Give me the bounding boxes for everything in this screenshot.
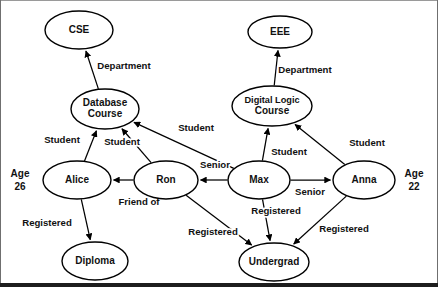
attribute-text-alice-age: 26 <box>14 181 26 192</box>
nodes-layer: CSEEEEDatabaseCourseDigital LogicCourseA… <box>43 11 395 281</box>
edge-label-e4: Student <box>104 136 141 147</box>
node-ron[interactable]: Ron <box>134 161 198 199</box>
attribute-anna-age: Age22 <box>405 168 424 192</box>
node-label-max: Max <box>249 174 269 185</box>
node-label-alice: Alice <box>65 174 89 185</box>
node-label-dlcourse: Digital Logic <box>244 95 299 105</box>
edge-label-e1: Department <box>97 60 151 71</box>
attribute-text-alice-age: Age <box>11 168 30 179</box>
attribute-text-anna-age: 22 <box>408 181 420 192</box>
edge-label-e13: Registered <box>251 205 301 216</box>
knowledge-graph: DepartmentDepartmentDepartmentDepartment… <box>0 0 438 298</box>
node-label-diploma: Diploma <box>75 255 115 266</box>
edge-max-to-dlcourse <box>262 128 268 160</box>
node-label-dbcourse: Database <box>83 97 128 108</box>
edge-anna-to-undergrad <box>294 196 347 244</box>
node-label-dbcourse: Course <box>88 108 123 119</box>
edge-label-e9: Senior <box>200 159 230 170</box>
edge-alice-to-diploma <box>81 199 90 239</box>
node-max[interactable]: Max <box>228 161 290 199</box>
edge-alice-to-dbcourse <box>85 131 97 161</box>
attribute-text-anna-age: Age <box>405 168 424 179</box>
node-dbcourse[interactable]: DatabaseCourse <box>71 89 139 129</box>
edge-label-e14: Registered <box>319 223 369 234</box>
node-label-cse: CSE <box>69 24 90 35</box>
node-label-dlcourse: Course <box>255 105 290 116</box>
node-alice[interactable]: Alice <box>43 161 111 199</box>
edge-label-e5: Student <box>178 122 215 133</box>
edge-label-e7: Student <box>349 137 386 148</box>
node-label-anna: Anna <box>352 174 377 185</box>
edge-label-e11: Registered <box>22 217 72 228</box>
node-diploma[interactable]: Diploma <box>62 242 128 280</box>
edge-label-e3: Student <box>44 134 81 145</box>
attribute-alice-age: Age26 <box>11 168 30 192</box>
node-label-ron: Ron <box>156 174 175 185</box>
edge-label-e2: Department <box>278 64 332 75</box>
node-anna[interactable]: Anna <box>333 161 395 199</box>
node-label-eee: EEE <box>270 26 290 37</box>
edge-label-e6: Student <box>271 146 308 157</box>
diagram-canvas: DepartmentDepartmentDepartmentDepartment… <box>0 0 438 298</box>
node-label-undergrad: Undergrad <box>249 256 300 267</box>
node-cse[interactable]: CSE <box>45 11 113 49</box>
node-eee[interactable]: EEE <box>248 16 312 48</box>
node-dlcourse[interactable]: Digital LogicCourse <box>232 86 312 126</box>
edge-ron-to-undergrad <box>186 195 252 245</box>
edge-label-e12: Registered <box>188 226 238 237</box>
edge-label-e10: Senior <box>295 186 325 197</box>
node-undergrad[interactable]: Undergrad <box>239 243 309 281</box>
